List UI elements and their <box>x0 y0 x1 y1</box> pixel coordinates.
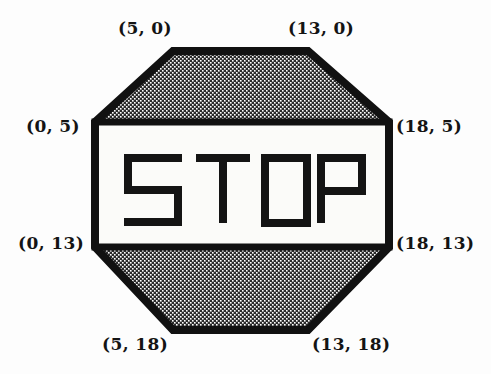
coord-label-lower-left: (0, 13) <box>18 235 84 252</box>
coord-label-bottom-left: (5, 18) <box>102 336 168 353</box>
coord-label-bottom-right: (13, 18) <box>312 336 390 353</box>
coord-label-upper-right: (18, 5) <box>396 118 462 135</box>
sign-white-band <box>95 122 389 247</box>
coord-label-top-left: (5, 0) <box>118 20 172 37</box>
coord-label-top-right: (13, 0) <box>288 20 354 37</box>
stop-sign-drawing <box>0 0 491 374</box>
coord-label-upper-left: (0, 5) <box>26 118 80 135</box>
stop-sign-figure: (5, 0) (13, 0) (0, 5) (18, 5) (0, 13) (1… <box>0 0 491 374</box>
coord-label-lower-right: (18, 13) <box>396 235 474 252</box>
